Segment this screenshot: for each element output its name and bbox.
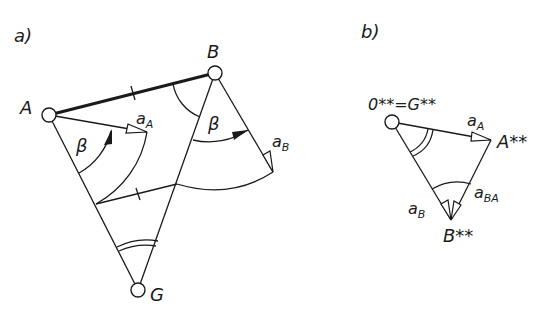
panel-a: a) aA aB β β [14,25,289,305]
vector-a-a-b-label: aA [467,111,484,133]
angle-arc-b-ab [173,84,200,117]
vector-a-b-b-label: aB [408,199,425,221]
link-ab [49,73,215,115]
vector-a-b-label: aB [272,132,289,154]
arc-b-sweep [177,172,273,190]
vector-a-ba-arrowhead [451,201,461,220]
vector-a-a-label: aA [136,109,153,131]
joint-a [42,108,56,122]
angle-beta-label-b: β [207,113,220,134]
line-b-g [138,73,215,290]
joint-b [208,66,222,80]
angle-g-arc-inner [119,245,156,251]
angle-beta-arrowhead-b [232,130,248,140]
vector-a-ba-label: aBA [474,183,499,205]
angle-b-star-arc [432,182,471,189]
point-b-label: B [207,41,219,62]
origin-label: 0**=G** [368,95,436,114]
point-a-label: A [19,97,32,118]
vector-a-b-arrowhead [263,151,273,172]
angle-beta-arrowhead-a [104,129,112,145]
line-a-g [49,115,138,290]
vector-a-b-b-arrowhead [441,200,451,220]
point-a-star-label: A** [496,131,527,152]
joint-g [131,283,145,297]
point-b-star-label: B** [443,225,473,246]
panel-b-label: b) [361,21,379,42]
point-g-label: G [150,284,164,305]
panel-b: b) 0**=G** aA aB aBA A** B** [361,21,527,246]
kinematics-diagram: a) aA aB β β [0,0,545,317]
panel-a-label: a) [14,25,32,46]
vector-a-a-b-arrowhead [471,132,491,141]
angle-beta-label-a: β [75,135,88,156]
transfer-line [96,184,177,204]
angle-origin-arc-outer [410,129,428,152]
origin-node [385,115,399,129]
angle-origin-arc-inner [413,130,433,156]
